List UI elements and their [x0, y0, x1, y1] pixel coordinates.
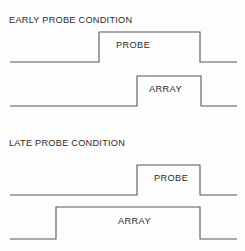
section-title-early-probe-condition: EARLY PROBE CONDITION: [9, 16, 132, 25]
pulse-label-late-array: ARRAY: [118, 217, 151, 226]
canvas-background: [0, 0, 245, 251]
section-title-late-probe-condition: LATE PROBE CONDITION: [9, 139, 125, 148]
timing-diagram-figure: EARLY PROBE CONDITION PROBE ARRAY LATE P…: [0, 0, 245, 251]
waveform-canvas: [0, 0, 245, 251]
pulse-label-late-probe: PROBE: [154, 174, 188, 183]
pulse-label-early-array: ARRAY: [149, 85, 182, 94]
pulse-label-early-probe: PROBE: [116, 41, 150, 50]
